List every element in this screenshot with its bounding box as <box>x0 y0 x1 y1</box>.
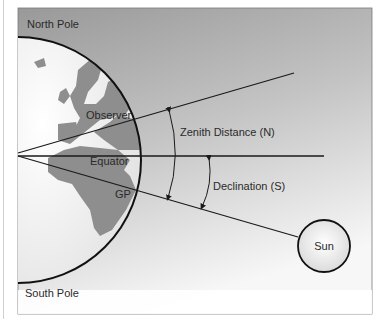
equator-label: Equator <box>90 155 129 167</box>
north-pole-label: North Pole <box>27 18 79 30</box>
south-pole-label: South Pole <box>25 287 79 299</box>
declination-label: Declination (S) <box>213 180 285 192</box>
sun-label: Sun <box>314 240 334 252</box>
zenith-distance-label: Zenith Distance (N) <box>180 126 275 138</box>
zenith-distance-diagram: North Pole South Pole Observer Equator G… <box>0 0 392 319</box>
observer-label: Observer <box>86 109 132 121</box>
gp-label: GP <box>115 188 131 200</box>
